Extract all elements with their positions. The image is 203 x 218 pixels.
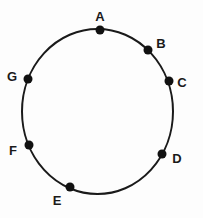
points-group: ABCDEFG [7, 9, 187, 208]
point-a [96, 26, 105, 35]
point-e [66, 183, 75, 192]
point-label-e: E [53, 193, 62, 208]
diagram-svg: ABCDEFG [0, 0, 203, 218]
point-g [24, 75, 33, 84]
circle-diagram: ABCDEFG [0, 0, 203, 218]
point-label-g: G [7, 69, 17, 84]
point-b [144, 46, 153, 55]
point-label-b: B [156, 36, 165, 51]
point-label-c: C [177, 75, 187, 90]
point-f [25, 141, 34, 150]
point-d [158, 150, 167, 159]
point-label-d: D [172, 151, 181, 166]
point-label-a: A [95, 9, 105, 24]
point-c [165, 77, 174, 86]
point-label-f: F [9, 143, 17, 158]
